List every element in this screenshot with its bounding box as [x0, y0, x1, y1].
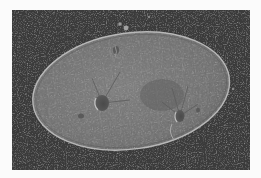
micrograph-frame: Micrograph of a ciliate protozoan (Param… [12, 10, 250, 170]
micrograph-image [12, 10, 250, 170]
